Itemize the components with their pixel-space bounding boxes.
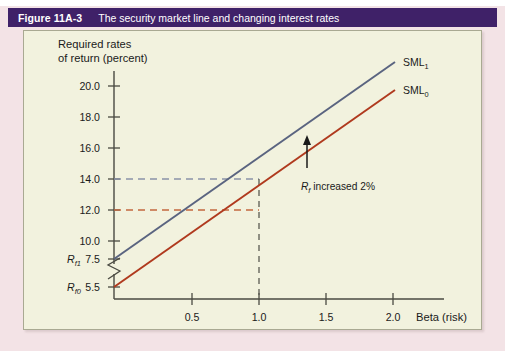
x-tick-label-2-0: 2.0 <box>386 311 401 323</box>
y-tick-label-18: 18.0 <box>79 111 100 123</box>
x-tick-label-1-5: 1.5 <box>319 311 334 323</box>
sml0-label-base: SML <box>403 84 425 96</box>
figure-title-bar: Figure 11A-3 The security market line an… <box>8 8 497 27</box>
y-tick-label-14: 14.0 <box>79 173 100 185</box>
y-tick-label-5-5: 5.5 <box>85 281 100 293</box>
y-tick-label-16: 16.0 <box>79 142 100 154</box>
figure-number: Figure 11A-3 <box>18 12 82 24</box>
sml1-line <box>114 62 395 259</box>
sml0-label: SML0 <box>403 84 429 99</box>
security-market-line-chart: Required rates of return (percent) 20.0 … <box>24 31 481 329</box>
x-axis-title: Beta (risk) <box>416 311 467 323</box>
y-axis-title-line1: Required rates <box>58 38 132 50</box>
sml1-label-subscript: 1 <box>425 62 429 71</box>
y-axis-title-line2: of return (percent) <box>58 52 148 64</box>
sml0-label-subscript: 0 <box>425 90 429 99</box>
rf-increase-arrow-head-icon <box>303 135 311 145</box>
rf0-symbol: Rf0 <box>67 281 82 296</box>
rf-increase-annotation: Rf increased 2% <box>301 181 375 195</box>
y-tick-label-12: 12.0 <box>79 204 100 216</box>
y-tick-label-20: 20.0 <box>79 80 100 92</box>
annotation-rest: increased 2% <box>310 181 375 192</box>
rf0-subscript: f0 <box>75 287 82 296</box>
chart-panel: Required rates of return (percent) 20.0 … <box>23 30 482 330</box>
sml1-label: SML1 <box>403 56 429 71</box>
x-tick-label-0-5: 0.5 <box>185 311 200 323</box>
x-tick-label-1-0: 1.0 <box>252 311 267 323</box>
figure-container: Figure 11A-3 The security market line an… <box>0 0 505 351</box>
y-tick-label-7-5: 7.5 <box>85 253 100 265</box>
rf1-subscript: f1 <box>75 259 81 268</box>
figure-caption: The security market line and changing in… <box>98 12 339 24</box>
rf1-symbol: Rf1 <box>67 253 81 268</box>
sml1-label-base: SML <box>403 56 425 68</box>
y-tick-label-10: 10.0 <box>79 235 100 247</box>
